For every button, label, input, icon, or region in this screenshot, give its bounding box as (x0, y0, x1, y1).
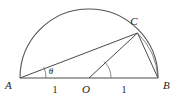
label-point-c: C (130, 15, 138, 27)
label-point-o: O (82, 83, 90, 95)
label-length-ao: 1 (53, 84, 58, 95)
geometry-canvas: A B C O θ 1 1 (0, 0, 175, 97)
label-length-ob: 1 (122, 84, 127, 95)
geometry-figure: A B C O θ 1 1 (0, 0, 175, 97)
label-point-a: A (4, 79, 12, 91)
label-point-b: B (163, 79, 170, 91)
angle-arc-o (104, 61, 111, 78)
segment-oc (89, 33, 138, 78)
label-angle-theta: θ (49, 66, 54, 76)
segment-ac (20, 33, 138, 78)
